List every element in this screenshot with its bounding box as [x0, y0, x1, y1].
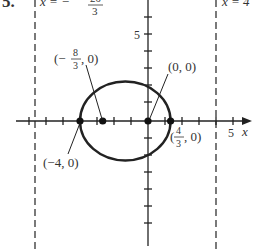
svg-text:3: 3	[73, 60, 78, 71]
ellipse-graph: 5. x 5 5	[0, 0, 254, 249]
svg-text:(−: (−	[54, 51, 66, 66]
directrix-left-label: x = − 20 3	[39, 0, 103, 17]
label-origin: (0, 0)	[168, 59, 196, 74]
svg-text:(: (	[170, 129, 174, 144]
directrix-left-equation: x = −	[39, 0, 70, 9]
label-4-3: ( 4 3 , 0)	[170, 125, 201, 149]
label-neg4: (−4, 0)	[43, 155, 79, 170]
label-neg8-3: (− 8 3 , 0)	[54, 47, 98, 71]
problem-number: 5.	[2, 0, 15, 11]
x-tick-label-5: 5	[228, 126, 234, 140]
directrix-right-label: x = 4	[221, 0, 250, 9]
point-vertex-right	[167, 117, 174, 124]
directrix-left-numerator: 20	[90, 0, 102, 4]
svg-text:3: 3	[176, 138, 181, 149]
x-axis	[16, 117, 252, 125]
svg-text:4: 4	[176, 125, 181, 136]
y-tick-label-5: 5	[134, 28, 140, 42]
point-origin	[144, 117, 151, 124]
svg-text:x = −: x = −	[39, 0, 70, 9]
svg-text:8: 8	[73, 47, 78, 58]
x-axis-label: x	[241, 124, 248, 139]
point-focus-left	[99, 117, 106, 124]
svg-text:, 0): , 0)	[81, 51, 98, 66]
svg-text:, 0): , 0)	[184, 129, 201, 144]
directrix-left-denominator: 3	[92, 5, 98, 17]
